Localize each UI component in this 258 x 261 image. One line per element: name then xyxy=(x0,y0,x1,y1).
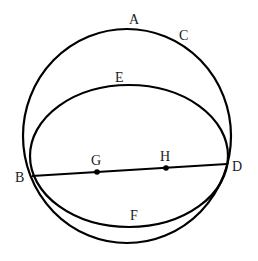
label-h: H xyxy=(160,149,170,164)
geometry-diagram: A C E B D G H F xyxy=(0,0,258,261)
label-d: D xyxy=(232,159,242,174)
label-e: E xyxy=(115,70,124,85)
label-a: A xyxy=(129,12,140,27)
outer-circle xyxy=(23,29,231,243)
point-g xyxy=(94,169,100,175)
inner-ellipse xyxy=(30,85,228,227)
point-h xyxy=(163,165,169,171)
label-c: C xyxy=(179,28,188,43)
segment-bd xyxy=(32,164,227,176)
label-g: G xyxy=(91,153,101,168)
label-b: B xyxy=(15,170,24,185)
label-f: F xyxy=(130,208,138,223)
